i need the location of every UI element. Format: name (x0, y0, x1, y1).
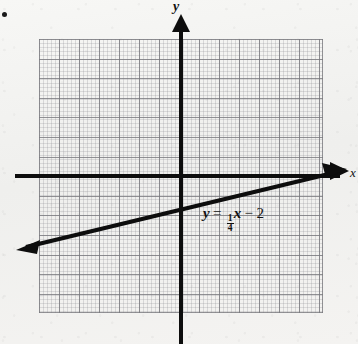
graph-figure: x y y=14x−2 (0, 0, 358, 344)
equation-minus: − (245, 205, 254, 221)
equation-lhs: y (203, 205, 210, 221)
plotted-line-graphic (0, 0, 358, 344)
fraction-numerator: 1 (227, 214, 234, 223)
equation-fraction: 14 (227, 214, 234, 233)
line-left-arrowhead (16, 240, 40, 254)
equation-variable: x (234, 205, 242, 221)
equation-annotation: y=14x−2 (203, 205, 264, 233)
line-right-arrowhead (322, 163, 347, 178)
line-segment (26, 172, 337, 247)
line-series-group (16, 163, 347, 254)
equation-equals: = (213, 205, 222, 221)
equation-constant: 2 (256, 205, 264, 221)
fraction-denominator: 4 (227, 223, 234, 233)
